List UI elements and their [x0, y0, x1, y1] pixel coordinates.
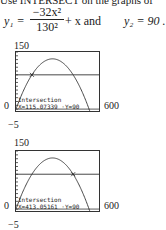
graph2-readout-title: Intersection [18, 196, 61, 203]
graph1-readout-title: Intersection [18, 96, 61, 103]
graph2-screen: Intersection X=413.05161 ·Y=90 [15, 150, 100, 212]
equation1-numerator: −32x² [30, 6, 64, 20]
graph2-ymin-label: −5 [8, 219, 19, 230]
graph2-ymax-label: 150 [14, 137, 29, 148]
equation1-lhs: y₁ = [4, 14, 25, 29]
graph1-ymin-label: −5 [8, 119, 19, 130]
intro-text: Use INTERSECT on the graphs of [0, 0, 153, 6]
equation2: y₂ = 90 . [124, 14, 166, 29]
graph2-readout-values: X=413.05161 ·Y=90 [18, 203, 79, 210]
graph1-readout-values: X=115.07339 ·Y=90 [18, 103, 79, 110]
equation1-denominator: 130² [30, 20, 64, 34]
graph1-xmin-label: 0 [4, 100, 9, 111]
graph2-xmax-label: 600 [104, 200, 119, 211]
equation1-fraction: −32x² 130² [30, 6, 64, 34]
graph1-ymax-label: 150 [14, 40, 29, 51]
equation1-tail: + x and [65, 14, 101, 29]
graph2-xmin-label: 0 [4, 200, 9, 211]
graph1-xmax-label: 600 [104, 100, 119, 111]
graph1-screen: Intersection X=115.07339 ·Y=90 [15, 51, 100, 112]
